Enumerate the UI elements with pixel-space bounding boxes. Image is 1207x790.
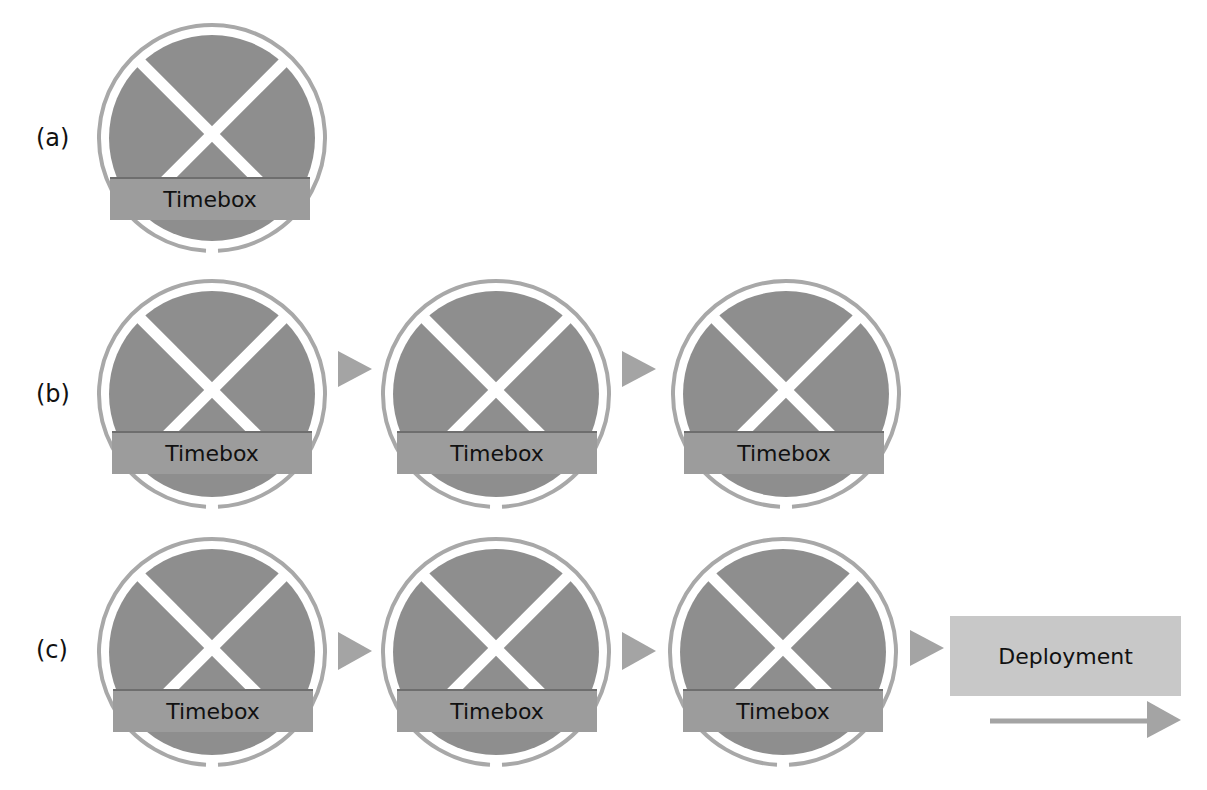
arrow-c3-deploy-icon	[910, 630, 944, 666]
timebox-b2: Timebox	[397, 431, 597, 474]
timebox-b1: Timebox	[112, 431, 312, 474]
timebox-b3: Timebox	[684, 431, 884, 474]
timebox-c1: Timebox	[113, 689, 313, 732]
arrow-b2-b3-icon	[622, 351, 656, 387]
deployment-box: Deployment	[950, 616, 1181, 696]
row-label-b: (b)	[36, 380, 76, 408]
arrow-c1-c2-icon	[338, 632, 372, 670]
arrow-b1-b2-icon	[338, 351, 372, 387]
row-label-a: (a)	[36, 124, 76, 152]
timebox-a1: Timebox	[110, 177, 310, 220]
timebox-c3: Timebox	[683, 689, 883, 732]
row-label-c: (c)	[36, 636, 76, 664]
arrow-c2-c3-icon	[622, 632, 656, 670]
timebox-c2: Timebox	[397, 689, 597, 732]
timeline-arrow-head-icon	[1147, 701, 1181, 738]
